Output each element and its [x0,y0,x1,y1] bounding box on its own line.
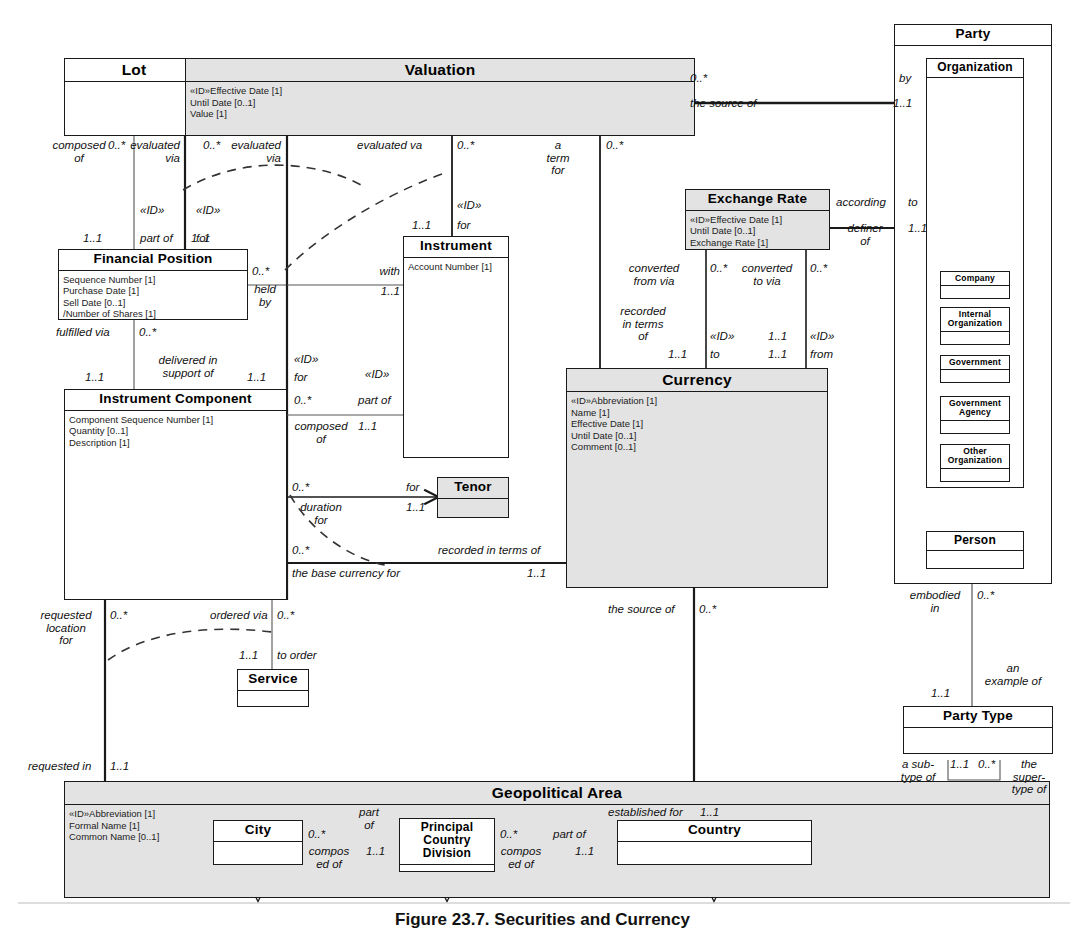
class-title-financial-position: Financial Position [59,250,247,271]
class-box-internal-organization[interactable]: Internal Organization [940,307,1010,345]
attribute-row: «ID»Abbreviation [1] [571,395,823,407]
class-box-valuation[interactable]: Valuation «ID»Effective Date [1] Until D… [185,58,695,136]
class-box-instrument[interactable]: Instrument Account Number [1] [403,236,509,458]
label-delivered-mult: 1..1 [85,371,104,384]
label-ordered-via: ordered via [210,609,268,622]
class-attributes-exchange-rate: «ID»Effective Date [1] Until Date [0..1]… [686,211,829,251]
attribute-row: Description [1] [69,437,282,449]
label-recorded-mult-src: 0..* [292,544,309,557]
label-pcd-part-mult: 1..1 [575,845,594,858]
label-recorded2-mult: 1..1 [668,348,687,361]
attribute-row: Sequence Number [1] [63,274,243,286]
label-currency-source-mult: 0..* [699,603,716,616]
class-title-government: Government [941,356,1009,370]
label-from: from [810,348,833,361]
label-part-of-id: «ID» [140,204,164,217]
class-title-internal-organization: Internal Organization [941,308,1009,332]
label-the-supertype-of: the super- type of [1004,758,1054,796]
label-an-example-of: an example of [977,662,1049,687]
label-embodied-in: embodied in [902,589,968,614]
class-attributes-financial-position: Sequence Number [1] Purchase Date [1] Se… [59,271,247,322]
label-evaluated-via-1-mult: 0..* [108,139,125,152]
label-ic-for-id: «ID» [294,353,318,366]
class-title-tenor: Tenor [438,478,508,499]
class-title-principal-country-division: Principal Country Division [400,819,494,865]
label-held-by-mult: 0..* [252,265,269,278]
class-box-financial-position[interactable]: Financial Position Sequence Number [1] P… [58,249,248,320]
label-requested-in-mult: 1..1 [110,760,129,773]
attribute-row: Account Number [1] [408,261,504,273]
label-evaluated-via-1: evaluated via [128,139,180,164]
class-title-city: City [214,821,302,842]
label-converted-to-via: converted to via [733,262,801,287]
label-city-mult: 0..* [308,828,325,841]
attribute-row: Until Date [0..1] [190,97,690,109]
label-ordered-via-mult: 0..* [277,609,294,622]
label-to-id: «ID» [710,330,734,343]
class-box-government[interactable]: Government [940,355,1010,383]
class-title-party: Party [895,25,1051,46]
label-tenor-mult-src: 0..* [292,481,309,494]
label-part-of: part of [140,232,173,245]
label-part-of-2: part of [358,394,391,407]
class-box-exchange-rate[interactable]: Exchange Rate «ID»Effective Date [1] Unt… [685,189,830,250]
class-box-instrument-component[interactable]: Instrument Component Component Sequence … [64,389,287,600]
class-box-principal-country-division[interactable]: Principal Country Division [399,818,495,872]
attribute-row: Until Date [0..1] [571,430,823,442]
label-definer-mult: 1..1 [908,222,927,235]
class-attributes-valuation: «ID»Effective Date [1] Until Date [0..1]… [186,82,694,122]
attribute-row: Purchase Date [1] [63,285,243,297]
label-converted-from-via: converted from via [618,262,690,287]
class-box-person[interactable]: Person [926,531,1024,569]
label-pcd-composed-of: compos ed of [494,845,548,870]
label-for-1: for [196,232,209,245]
class-box-government-agency[interactable]: Government Agency [940,396,1010,434]
label-an-example-of-mult: 1..1 [931,687,950,700]
label-from-id: «ID» [810,330,834,343]
label-valuation-source-mult: 0..* [690,72,707,85]
label-fulfilled-via-mult: 0..* [139,326,156,339]
label-the-base-currency-for: the base currency for [292,567,400,580]
label-to-order-mult: 1..1 [239,649,258,662]
label-converted-from-mult: 0..* [710,262,727,275]
attribute-row: Effective Date [1] [571,418,823,430]
class-box-country[interactable]: Country [617,820,812,865]
class-box-service[interactable]: Service [237,669,309,707]
label-part-of-mult: 1..1 [83,232,102,245]
class-title-party-type: Party Type [904,707,1052,728]
class-box-tenor[interactable]: Tenor [437,477,509,518]
class-title-person: Person [927,532,1023,551]
uml-diagram-canvas: Lot Valuation «ID»Effective Date [1] Unt… [0,0,1085,936]
label-recorded-in-terms-of-2: recorded in terms of [610,305,676,343]
class-box-other-organization[interactable]: Other Organization [940,444,1010,482]
label-evaluated-via-2: evaluated via [223,139,281,164]
label-the-source-of: the source of [690,97,756,110]
class-box-currency[interactable]: Currency «ID»Abbreviation [1] Name [1] E… [566,368,828,588]
label-composed-of-2: composed of [290,420,352,445]
class-box-party-type[interactable]: Party Type [903,706,1053,754]
label-converted-to-mult: 0..* [810,262,827,275]
label-from-mult: 1..1 [768,330,787,343]
class-title-country: Country [618,821,811,842]
class-title-currency: Currency [567,369,827,392]
label-a-subtype-mult: 1..1 [950,758,969,771]
label-requested-location-mult: 0..* [110,609,127,622]
label-a-term-for: a term for [528,139,588,177]
label-composed-of: composed of [40,139,118,164]
class-box-lot[interactable]: Lot [64,58,204,136]
label-instrument-for: for [457,219,470,232]
label-tenor-for: for [406,481,419,494]
attribute-row: Comment [0..1] [571,441,823,453]
label-recorded-in-terms-of: recorded in terms of [438,544,540,557]
class-title-service: Service [238,670,308,691]
class-box-city[interactable]: City [213,820,303,865]
label-delivered-in-support-of: delivered in support of [133,354,243,379]
label-a-term-for-mult: 0..* [606,139,623,152]
attribute-row: «ID»Abbreviation [1] [69,808,1045,820]
class-title-organization: Organization [927,59,1023,78]
label-to-order: to order [277,649,317,662]
class-box-company[interactable]: Company [940,271,1010,299]
attribute-row: «ID»Effective Date [1] [190,85,690,97]
label-to-mult: 1..1 [768,348,787,361]
label-pcd-mult: 0..* [500,828,517,841]
